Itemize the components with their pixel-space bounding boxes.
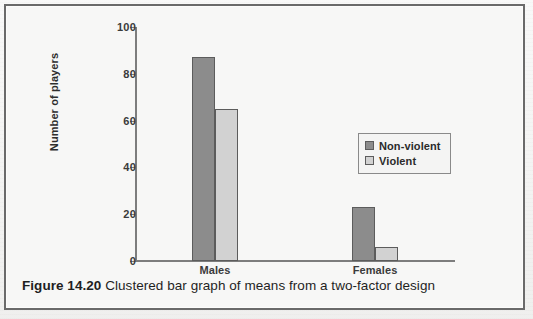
legend-item: Violent	[365, 153, 441, 168]
figure-number: Figure 14.20	[22, 278, 101, 293]
y-axis-tick-label: 60	[90, 115, 136, 127]
figure-box: 020406080100 Number of players MalesFema…	[4, 4, 525, 310]
legend-swatch-icon	[365, 141, 374, 150]
y-axis-title: Number of players	[48, 22, 60, 182]
legend-swatch-icon	[365, 156, 374, 165]
bar	[352, 207, 375, 261]
y-axis-tick-label: 0	[90, 255, 136, 267]
y-axis-tick-label: 80	[90, 68, 136, 80]
figure-caption-text: Clustered bar graph of means from a two-…	[105, 278, 435, 293]
x-axis-tick-label: Males	[165, 264, 265, 276]
bar	[192, 57, 215, 261]
legend-item-label: Non-violent	[379, 140, 441, 152]
chart-plot-area: 020406080100 Number of players MalesFema…	[6, 6, 527, 270]
y-axis-tick-label: 100	[90, 21, 136, 33]
legend-item-label: Violent	[379, 155, 416, 167]
figure-caption: Figure 14.20 Clustered bar graph of mean…	[22, 278, 517, 293]
y-axis-tick-label: 40	[90, 161, 136, 173]
bar	[375, 247, 398, 261]
y-axis-tick-label: 20	[90, 208, 136, 220]
scanned-page-background: and situated. This is contrasted to a ba…	[0, 0, 533, 319]
bar	[215, 109, 238, 261]
x-axis-tick-label: Females	[325, 264, 425, 276]
chart-legend: Non-violentViolent	[358, 133, 451, 174]
legend-item: Non-violent	[365, 138, 441, 153]
